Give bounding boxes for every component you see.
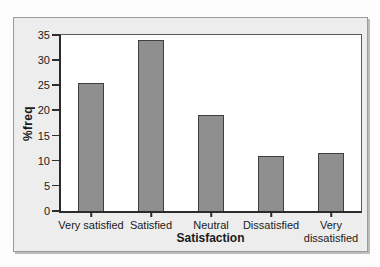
x-tick-label-satisfied: Satisfied bbox=[130, 219, 172, 232]
y-tick-label-35: 35 bbox=[38, 29, 50, 41]
x-tick-mark-satisfied bbox=[150, 213, 152, 217]
x-tick-label-very-satisfied: Very satisfied bbox=[58, 219, 123, 232]
y-tick-label-10: 10 bbox=[38, 155, 50, 167]
x-tick-mark-very-satisfied bbox=[90, 213, 92, 217]
y-tick-mark-30 bbox=[52, 59, 59, 61]
y-tick-mark-15 bbox=[52, 135, 59, 137]
plot-area: 05101520253035Very satisfiedSatisfiedNeu… bbox=[59, 34, 362, 213]
y-tick-label-25: 25 bbox=[38, 79, 50, 91]
x-tick-mark-very-dissatisfied bbox=[330, 213, 332, 217]
y-tick-label-0: 0 bbox=[44, 205, 50, 217]
y-tick-mark-20 bbox=[52, 109, 59, 111]
y-tick-mark-5 bbox=[52, 185, 59, 187]
x-tick-mark-dissatisfied bbox=[270, 213, 272, 217]
bar-very-dissatisfied bbox=[318, 153, 344, 211]
y-tick-label-20: 20 bbox=[38, 104, 50, 116]
y-tick-label-30: 30 bbox=[38, 54, 50, 66]
x-tick-mark-neutral bbox=[210, 213, 212, 217]
y-tick-mark-25 bbox=[52, 84, 59, 86]
bar-chart-figure: %freq 05101520253035Very satisfiedSatisf… bbox=[13, 17, 368, 252]
y-tick-mark-0 bbox=[52, 210, 59, 212]
y-tick-mark-10 bbox=[52, 160, 59, 162]
bar-very-satisfied bbox=[78, 83, 104, 211]
bar-neutral bbox=[198, 115, 224, 211]
y-tick-label-15: 15 bbox=[38, 130, 50, 142]
bar-dissatisfied bbox=[258, 156, 284, 211]
x-axis-title: Satisfaction bbox=[59, 231, 362, 245]
y-tick-label-5: 5 bbox=[44, 180, 50, 192]
x-tick-label-dissatisfied: Dissatisfied bbox=[243, 219, 299, 232]
y-tick-mark-35 bbox=[52, 34, 59, 36]
y-axis-title: %freq bbox=[20, 34, 36, 213]
bar-satisfied bbox=[138, 40, 164, 211]
x-tick-label-neutral: Neutral bbox=[193, 219, 228, 232]
